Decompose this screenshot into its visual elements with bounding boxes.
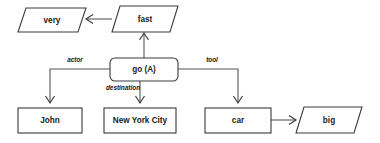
node-fast-label: fast	[138, 15, 153, 24]
node-go-label: go (A)	[132, 65, 156, 74]
node-car-label: car	[232, 116, 245, 125]
edge-go-to-new-york-city: destination	[106, 81, 145, 103]
edge-go-to-fast	[140, 33, 149, 58]
edge-label-tool: tool	[206, 56, 218, 63]
node-go[interactable]: go (A)	[110, 58, 178, 81]
edge-go-to-john: actor	[46, 56, 111, 103]
edge-car-to-big	[271, 116, 296, 125]
edge-label-destination: destination	[106, 84, 140, 91]
node-john-label: John	[40, 116, 60, 125]
node-big-label: big	[323, 116, 335, 125]
edge-fast-to-very	[86, 15, 112, 24]
node-very-label: very	[44, 16, 61, 25]
node-car[interactable]: car	[205, 108, 271, 133]
edge-label-actor: actor	[67, 56, 83, 63]
semantic-network-diagram: actor destination tool very fast	[0, 0, 380, 143]
node-big[interactable]: big	[296, 107, 362, 133]
node-new-york-city[interactable]: New York City	[104, 108, 176, 133]
diagram-canvas: actor destination tool very fast	[0, 0, 380, 143]
node-new-york-city-label: New York City	[113, 116, 168, 125]
node-john[interactable]: John	[18, 108, 82, 133]
node-fast[interactable]: fast	[112, 6, 178, 32]
edge-go-to-car: tool	[178, 56, 243, 103]
node-very[interactable]: very	[18, 8, 86, 32]
